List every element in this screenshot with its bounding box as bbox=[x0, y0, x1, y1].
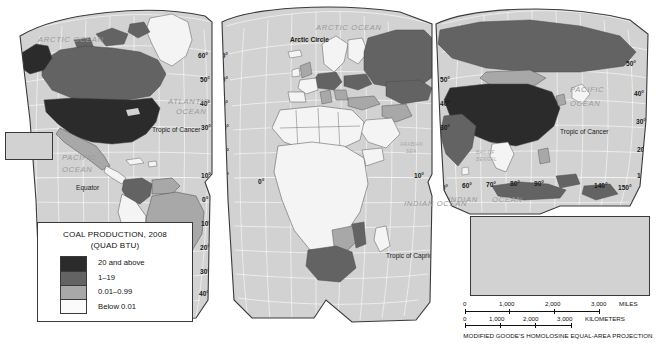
lat-label: 30° bbox=[4, 124, 14, 131]
lat-label-right: 50° bbox=[626, 60, 636, 67]
lon-label: 70° bbox=[486, 181, 496, 188]
scale-km-unit: KILOMETERS bbox=[585, 315, 625, 322]
scale-miles-unit: MILES bbox=[619, 300, 638, 307]
arabian-sea-label: ARABIAN bbox=[399, 142, 423, 147]
lat-label: 50° bbox=[440, 76, 450, 83]
lat-label: 10° bbox=[219, 220, 229, 227]
lat-label: 40° bbox=[4, 289, 14, 296]
scale-miles-1: 1,000 bbox=[499, 300, 514, 307]
bay-of-bengal-label2: BENGAL bbox=[476, 157, 497, 162]
legend-title-line1: COAL PRODUCTION, 2008 bbox=[38, 230, 192, 241]
lat-label: 20° bbox=[218, 244, 228, 251]
lat-label-right: 30° bbox=[201, 124, 211, 131]
lat-label: 80° bbox=[36, 16, 46, 23]
atlantic-ocean-label: ATLANTIC bbox=[167, 97, 210, 106]
tropic-of-capricorn-label: Tropic of Capricorn bbox=[386, 252, 442, 260]
legend-label-0: 20 and above bbox=[98, 256, 190, 271]
bay-of-bengal-label: BAY OF bbox=[476, 150, 496, 155]
lat-label: 30° bbox=[219, 124, 229, 131]
lat-label: 40° bbox=[4, 100, 14, 107]
arctic-circle-label: Arctic Circle bbox=[290, 36, 329, 43]
scale-miles-numbers: 0 1,000 2,000 3,000 MILES bbox=[463, 300, 659, 309]
pacific-ocean-label2: OCEAN bbox=[62, 165, 93, 174]
lat-label-right: 0° bbox=[202, 196, 209, 203]
lon-label: 90° bbox=[534, 180, 544, 187]
legend-swatch-3 bbox=[61, 299, 86, 313]
lat-label-right: 10° bbox=[637, 172, 647, 179]
lon-label: 150° bbox=[618, 184, 632, 191]
legend-title-line2: (QUAD BTU) bbox=[38, 241, 192, 252]
lat-label-right: 40° bbox=[634, 90, 644, 97]
legend-label-3: Below 0.01 bbox=[98, 300, 190, 315]
legend-label-2: 0.01–0.99 bbox=[98, 285, 190, 300]
lon-label: 80° bbox=[510, 180, 520, 187]
scale-km-1: 1,000 bbox=[489, 315, 504, 322]
lat-label: 30° bbox=[4, 268, 14, 275]
arabian-sea-label2: SEA bbox=[406, 149, 416, 154]
lat-label: 40° bbox=[218, 291, 228, 298]
australia-inset-box bbox=[470, 216, 650, 296]
lat-label: 30° bbox=[440, 124, 450, 131]
scale-miles-2: 2,000 bbox=[545, 300, 560, 307]
lat-label: 40° bbox=[440, 100, 450, 107]
lon-label: 140° bbox=[594, 182, 608, 189]
legend-swatch-2 bbox=[61, 285, 86, 299]
lat-label: 50° bbox=[4, 310, 14, 317]
lat-label: 50° bbox=[4, 76, 14, 83]
map-panel-eurafrica: 60° 50° 40° 30° 20° 10° 0° 10° 20° 30° 4… bbox=[214, 0, 442, 346]
lon-label: 0° bbox=[258, 178, 265, 185]
lat-label: 20° bbox=[4, 244, 14, 251]
projection-note: MODIFIED GOODE'S HOMOLOSINE EQUAL-AREA P… bbox=[455, 332, 661, 339]
lat-label-right: 20° bbox=[637, 146, 647, 153]
tropic-of-cancer-right-label: Tropic of Cancer bbox=[560, 128, 609, 136]
lat-label: 20° bbox=[219, 148, 229, 155]
lon-label: 60° bbox=[462, 182, 472, 189]
atlantic-ocean-label2: OCEAN bbox=[176, 107, 207, 116]
legend-swatch-column bbox=[60, 256, 87, 314]
indian-ocean-label2: OCEAN bbox=[492, 195, 523, 204]
world-map: 80° 70° 60° 50° 40° 30° 10° 0° 10° 20° 3… bbox=[0, 0, 661, 346]
lat-label: 10° bbox=[4, 220, 14, 227]
lat-label: 40° bbox=[218, 100, 228, 107]
lat-label: 60° bbox=[4, 52, 14, 59]
lat-label: 30° bbox=[218, 268, 228, 275]
pacific-ocean-label: PACIFIC bbox=[62, 153, 96, 162]
inset-160-box bbox=[5, 132, 53, 160]
scale-miles-0: 0 bbox=[463, 300, 466, 307]
legend-label-1: 1–19 bbox=[98, 271, 190, 286]
scale-miles-3: 3,000 bbox=[591, 300, 606, 307]
lat-label: 70° bbox=[16, 24, 26, 31]
lat-label: 50° bbox=[218, 76, 228, 83]
pacific-ocean-label-right2: OCEAN bbox=[570, 99, 601, 108]
scale-km-0: 0 bbox=[463, 315, 466, 322]
legend-label-column: 20 and above 1–19 0.01–0.99 Below 0.01 bbox=[98, 256, 190, 314]
scale-bar-miles bbox=[463, 309, 659, 314]
arctic-ocean-label: ARCTIC OCEAN bbox=[37, 35, 104, 44]
equator-label: Equator bbox=[76, 184, 100, 192]
lat-label: 10° bbox=[4, 172, 14, 179]
lat-label-right: 30° bbox=[636, 118, 646, 125]
legend-swatch-1 bbox=[61, 271, 86, 285]
pacific-ocean-label-right: PACIFIC bbox=[570, 85, 604, 94]
lat-label-right: 50° bbox=[200, 76, 210, 83]
scale-bar-km bbox=[463, 323, 659, 328]
lat-label-right: 60° bbox=[198, 52, 208, 59]
legend-swatch-0 bbox=[61, 257, 86, 271]
tropic-of-cancer-label: Tropic of Cancer bbox=[152, 126, 201, 134]
scale-km-3: 3,000 bbox=[557, 315, 572, 322]
arctic-ocean-label-center: ARCTIC OCEAN bbox=[315, 23, 382, 32]
scale-km-2: 2,000 bbox=[523, 315, 538, 322]
indian-ocean-right-label: INDIAN OCEAN bbox=[404, 199, 467, 208]
map-legend: COAL PRODUCTION, 2008 (QUAD BTU) 20 and … bbox=[37, 222, 193, 322]
lat-label: 0° bbox=[220, 196, 227, 203]
lat-label-right: 10° bbox=[201, 172, 211, 179]
lat-label: 0° bbox=[5, 196, 12, 203]
lat-label-right: 10° bbox=[414, 172, 424, 179]
